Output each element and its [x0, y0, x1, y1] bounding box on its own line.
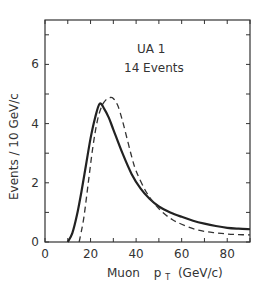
x-label-sub: T — [164, 273, 170, 282]
chart: 0204060800246 UA 1 14 Events Events / 10… — [0, 0, 263, 290]
tick-label: 6 — [31, 57, 39, 71]
x-axis-label: Muon p T (GeV/c) — [107, 266, 223, 283]
annotation-events: 14 Events — [124, 61, 184, 75]
dashed-curve — [79, 97, 250, 242]
tick-label: 40 — [128, 247, 143, 261]
x-label-var: p — [154, 266, 162, 280]
tick-label: 0 — [41, 247, 49, 261]
tick-labels: 0204060800246 — [31, 57, 235, 261]
x-label-unit: (GeV/c) — [178, 266, 223, 280]
tick-label: 60 — [174, 247, 189, 261]
tick-label: 80 — [220, 247, 235, 261]
tick-label: 0 — [31, 235, 39, 249]
tick-label: 20 — [83, 247, 98, 261]
tick-label: 2 — [31, 176, 39, 190]
tick-label: 4 — [31, 117, 39, 131]
solid-curve — [68, 103, 250, 242]
annotation-ua1: UA 1 — [137, 42, 165, 56]
y-axis-label: Events / 10 GeV/c — [7, 93, 21, 200]
x-label-main: Muon — [107, 266, 140, 280]
